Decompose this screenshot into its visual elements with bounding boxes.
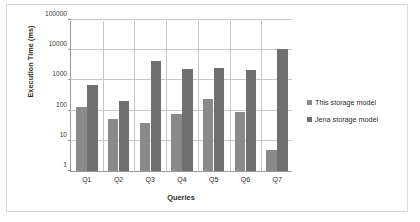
bar: [235, 112, 246, 171]
y-axis-title: Execution Time (ms): [26, 7, 35, 117]
bar-group: Q3: [134, 21, 166, 171]
bar: [214, 68, 225, 171]
x-axis-tick-label: Q7: [261, 176, 293, 183]
bar-group: Q2: [103, 21, 135, 171]
x-axis-tick-label: Q6: [230, 176, 262, 183]
bar-group: Q7: [261, 21, 293, 171]
bar: [266, 150, 277, 171]
bar: [151, 61, 162, 171]
bar: [76, 107, 87, 171]
bar: [140, 123, 151, 171]
legend-item[interactable]: Jena storage model: [307, 115, 378, 124]
y-axis-tick-label: 1000: [52, 70, 67, 77]
x-axis-tick-label: Q5: [198, 176, 230, 183]
y-axis-tick-mark: [68, 19, 71, 20]
bar: [87, 85, 98, 171]
legend-item-label: Jena storage model: [315, 115, 378, 124]
x-axis-tick-label: Q3: [134, 176, 166, 183]
bar: [182, 69, 193, 171]
plot-area: 100000100001000100101 Q1Q2Q3Q4Q5Q6Q7: [70, 21, 292, 172]
x-axis-tick-label: Q1: [71, 176, 103, 183]
y-axis-tick-label: 100000: [45, 10, 67, 17]
y-axis-tick-label: 1: [63, 161, 67, 168]
bar-group: Q5: [198, 21, 230, 171]
legend-swatch-icon: [307, 100, 312, 105]
gridline: [71, 19, 292, 20]
chart-container: Execution Time (ms) 10000010000100010010…: [6, 4, 408, 212]
bar: [119, 101, 130, 171]
y-axis-tick-label: 10000: [49, 40, 67, 47]
bar: [246, 70, 257, 171]
x-axis-title: Queries: [70, 193, 292, 202]
bar-group: Q4: [166, 21, 198, 171]
x-axis-tick-label: Q2: [103, 176, 135, 183]
legend-swatch-icon: [307, 117, 312, 122]
bar-group: Q1: [71, 21, 103, 171]
legend-item-label: This storage model: [315, 98, 376, 107]
legend-item[interactable]: This storage model: [307, 98, 378, 107]
bar: [171, 114, 182, 171]
chart-legend: This storage modelJena storage model: [307, 98, 378, 132]
x-axis-tick-label: Q4: [166, 176, 198, 183]
bar: [277, 49, 288, 171]
bar-group: Q6: [230, 21, 262, 171]
bar: [108, 119, 119, 171]
y-axis-tick-label: 100: [56, 100, 67, 107]
y-axis-tick-label: 10: [60, 130, 67, 137]
bar: [203, 99, 214, 171]
